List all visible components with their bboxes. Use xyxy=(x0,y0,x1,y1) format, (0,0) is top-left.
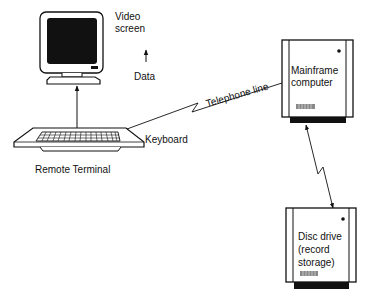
mainframe-disc-connector xyxy=(306,125,333,208)
keyboard-icon xyxy=(14,128,144,151)
disc-drive-label-3: storage) xyxy=(298,257,335,268)
video-screen-label-1: Video xyxy=(115,11,141,22)
disc-drive-label-1: Disc drive xyxy=(298,231,342,242)
mainframe-label-1: Mainframe xyxy=(291,65,339,76)
monitor-icon xyxy=(40,12,103,84)
remote-terminal-label: Remote Terminal xyxy=(35,164,110,175)
diagram-canvas: Video screen Data Key xyxy=(0,0,368,299)
keyboard-label: Keyboard xyxy=(145,134,188,145)
data-label: Data xyxy=(134,71,156,82)
video-screen-label-2: screen xyxy=(115,23,145,34)
mainframe-label-2: computer xyxy=(291,77,333,88)
telephone-line-label: Telephone line xyxy=(205,80,270,108)
disc-drive-label-2: (record xyxy=(298,244,330,255)
